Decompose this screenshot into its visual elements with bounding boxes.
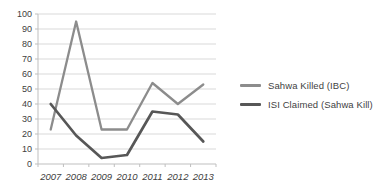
svg-text:2013: 2013 [192, 171, 215, 182]
svg-text:70: 70 [22, 54, 32, 64]
svg-text:2010: 2010 [115, 171, 138, 182]
svg-text:0: 0 [27, 159, 32, 169]
svg-text:60: 60 [22, 69, 32, 79]
svg-text:2011: 2011 [141, 171, 162, 182]
legend-label: Sahwa Killed (IBC) [268, 80, 350, 91]
svg-text:50: 50 [22, 84, 32, 94]
svg-text:90: 90 [22, 24, 32, 34]
svg-text:80: 80 [22, 39, 32, 49]
svg-text:100: 100 [17, 9, 32, 19]
legend-item-sahwa-killed: Sahwa Killed (IBC) [240, 80, 373, 91]
svg-text:2009: 2009 [90, 171, 113, 182]
legend-label: ISI Claimed (Sahwa Kill) [268, 99, 373, 110]
svg-text:20: 20 [22, 129, 32, 139]
svg-text:2012: 2012 [166, 171, 189, 182]
svg-text:30: 30 [22, 114, 32, 124]
legend-line-marker [240, 84, 261, 87]
legend: Sahwa Killed (IBC) ISI Claimed (Sahwa Ki… [240, 80, 373, 110]
svg-text:40: 40 [22, 99, 32, 109]
svg-text:2007: 2007 [39, 171, 62, 182]
svg-text:10: 10 [22, 144, 32, 154]
line-chart-plot: 0102030405060708090100200720082009201020… [0, 0, 238, 194]
svg-text:2008: 2008 [65, 171, 88, 182]
legend-line-marker [240, 103, 261, 106]
legend-item-isi-claimed: ISI Claimed (Sahwa Kill) [240, 99, 373, 110]
